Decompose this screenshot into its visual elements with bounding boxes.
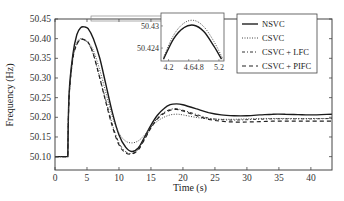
x-tick-label: 30 xyxy=(242,173,252,183)
x-axis-title: Time (s) xyxy=(173,182,207,194)
frequency-chart: 0510152025303540 50.1050.1550.2050.2550.… xyxy=(0,0,344,201)
svg-text:50.424: 50.424 xyxy=(137,44,159,53)
svg-text:4.2: 4.2 xyxy=(164,63,174,72)
svg-text:50.43: 50.43 xyxy=(141,22,159,31)
x-tick-label: 35 xyxy=(274,173,284,183)
y-tick-label: 50.30 xyxy=(30,73,52,83)
y-tick-label: 50.45 xyxy=(30,14,52,24)
y-tick-label: 50.25 xyxy=(30,93,52,103)
svg-text:CSVC + PIFC: CSVC + PIFC xyxy=(262,61,312,71)
y-tick-label: 50.35 xyxy=(30,53,52,63)
svg-text:4.6: 4.6 xyxy=(184,63,194,72)
legend: NSVC CSVC CSVC + LFC CSVC + PIFC xyxy=(237,14,317,73)
x-tick-label: 5 xyxy=(85,173,90,183)
svg-text:4.8: 4.8 xyxy=(194,63,204,72)
svg-text:CSVC + LFC: CSVC + LFC xyxy=(262,47,309,57)
x-tick-label: 10 xyxy=(114,173,124,183)
x-tick-label: 15 xyxy=(146,173,156,183)
y-tick-label: 50.15 xyxy=(30,132,52,142)
x-tick-label: 25 xyxy=(210,173,220,183)
y-tick-label: 50.20 xyxy=(30,112,52,122)
y-axis-title: Frequency (Hz) xyxy=(4,63,16,126)
y-tick-label: 50.10 xyxy=(30,152,52,162)
svg-text:5.2: 5.2 xyxy=(214,63,224,72)
y-tick-label: 50.40 xyxy=(30,34,52,44)
svg-text:CSVC: CSVC xyxy=(262,33,285,43)
svg-text:NSVC: NSVC xyxy=(262,19,285,29)
x-tick-label: 40 xyxy=(306,173,316,183)
inset-plot: 4.24.64.85.250.42450.43 xyxy=(137,13,224,72)
x-tick-label: 0 xyxy=(53,173,58,183)
inset-frame xyxy=(161,13,224,61)
